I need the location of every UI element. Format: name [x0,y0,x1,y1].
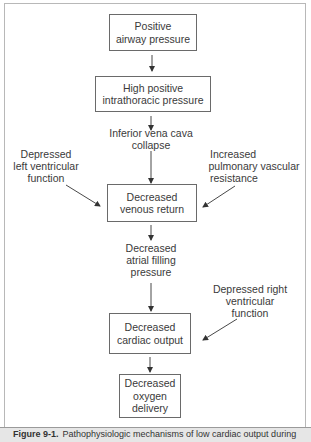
box-text-line: High positive [103,82,204,95]
label-increased-pulmonary-vascular-resistance: Increased pulmonary vascular resistance [206,148,302,184]
box-decreased-cardiac-output: Decreased cardiac output [109,313,191,354]
box-text-line: Positive [116,20,190,33]
box-text-line: Decreased [117,321,183,334]
label-text-line: ventricular [205,295,295,307]
box-decreased-oxygen-delivery: Decreased oxygen delivery [119,374,181,418]
label-depressed-left-ventricular-function: Depressed left ventricular function [10,148,82,184]
caption-text: Pathophysiologic mechanisms of low cardi… [63,429,297,439]
label-text-line: pressure [106,266,196,278]
label-text-line: left ventricular [10,160,82,172]
label-text-line: resistance [206,172,302,184]
box-positive-airway-pressure: Positive airway pressure [109,14,197,51]
box-text-line: intrathoracic pressure [103,94,204,107]
arrow-pvr-to-venous-return [203,186,235,207]
label-text-line: Decreased [106,242,196,254]
box-text-line: cardiac output [117,334,183,347]
label-text-line: function [10,172,82,184]
figure-caption: Figure 9-1.Pathophysiologic mechanisms o… [0,427,311,442]
label-text-line: atrial filling [106,254,196,266]
label-text-line: pulmonary vascular [206,160,302,172]
box-text-line: oxygen [125,390,176,403]
label-text-line: Depressed [10,148,82,160]
box-text-line: delivery [125,402,176,415]
box-decreased-venous-return: Decreased venous return [107,184,197,222]
box-text-line: airway pressure [116,33,190,46]
box-high-positive-intrathoracic-pressure: High positive intrathoracic pressure [95,76,211,112]
box-text-line: Decreased [120,191,184,204]
figure-label: Figure 9-1. [13,429,59,439]
arrow-rv-to-cardiac-output [203,319,237,340]
label-decreased-atrial-filling-pressure: Decreased atrial filling pressure [106,242,196,278]
label-text-line: Increased [206,148,302,160]
box-text-line: Decreased [125,377,176,390]
label-text-line: function [205,307,295,319]
box-text-line: venous return [120,203,184,216]
arrow-lv-to-venous-return [66,185,100,206]
label-inferior-vena-cava-collapse: Inferior vena cava collapse [96,127,206,151]
label-text-line: Depressed right [205,283,295,295]
label-text-line: collapse [96,139,206,151]
label-text-line: Inferior vena cava [96,127,206,139]
label-depressed-right-ventricular-function: Depressed right ventricular function [205,283,295,319]
